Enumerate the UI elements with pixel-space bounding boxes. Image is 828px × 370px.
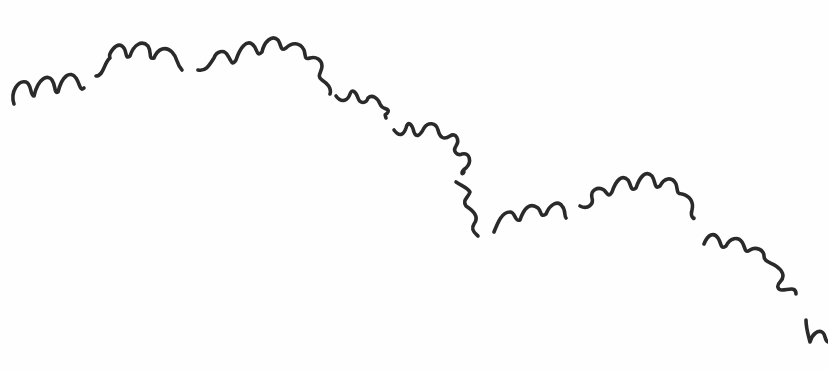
squiggle-6 — [456, 182, 478, 236]
squiggle-3 — [198, 38, 331, 94]
squiggle-strokes — [13, 38, 828, 342]
squiggle-9 — [704, 235, 796, 294]
squiggle-drawing — [0, 0, 828, 370]
squiggle-8 — [580, 174, 694, 219]
squiggle-7 — [494, 203, 566, 232]
squiggle-4 — [336, 91, 388, 118]
squiggle-10 — [806, 320, 828, 342]
squiggle-5 — [394, 124, 469, 174]
squiggle-1 — [13, 74, 84, 104]
squiggle-2 — [96, 43, 182, 76]
